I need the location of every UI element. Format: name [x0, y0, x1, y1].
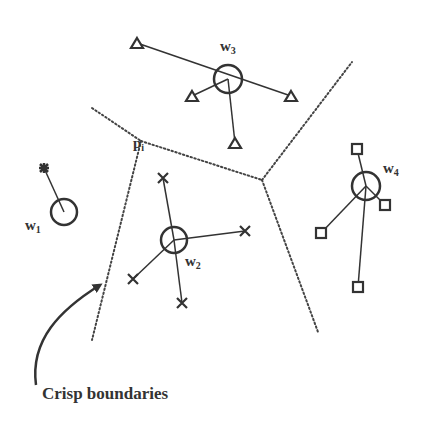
crisp-boundaries [92, 62, 352, 340]
cluster-w4 [316, 144, 390, 292]
point-label-pi: pi [133, 135, 144, 153]
link-line [321, 186, 366, 233]
triangle-marker-icon [285, 91, 297, 101]
cluster-w3 [131, 38, 297, 148]
boundary-w2-w4 [262, 180, 318, 332]
prototype-label-w3: w3 [220, 38, 236, 56]
diagram-graphics [0, 0, 433, 432]
x-marker-icon [128, 274, 138, 284]
cluster-w1 [39, 163, 77, 225]
boundary-w1-w2 [92, 141, 141, 340]
voronoi-diagram: pi w1 w2 w3 w4 Crisp boundaries [0, 0, 433, 432]
link-line [228, 79, 235, 143]
square-marker-icon [316, 228, 326, 238]
cluster-w2 [128, 173, 250, 308]
triangle-marker-icon [186, 91, 198, 101]
star-marker-icon [39, 163, 49, 173]
curved-arrow-icon [35, 285, 100, 385]
square-marker-icon [352, 144, 362, 154]
square-marker-icon [380, 200, 390, 210]
link-line [133, 240, 174, 279]
prototype-label-w1: w1 [25, 217, 41, 235]
triangle-marker-icon [229, 138, 241, 148]
prototype-label-w2: w2 [185, 253, 201, 271]
square-marker-icon [353, 282, 363, 292]
square-markers [316, 144, 390, 292]
link-line [137, 43, 291, 96]
triangle-marker-icon [131, 38, 143, 48]
triangle-markers [131, 38, 297, 148]
boundary-w3-w4 [262, 62, 352, 180]
prototype-label-w4: w4 [383, 160, 399, 178]
caption-crisp-boundaries: Crisp boundaries [42, 384, 168, 404]
link-line [192, 79, 228, 96]
link-line [174, 240, 182, 303]
x-markers [128, 173, 250, 308]
